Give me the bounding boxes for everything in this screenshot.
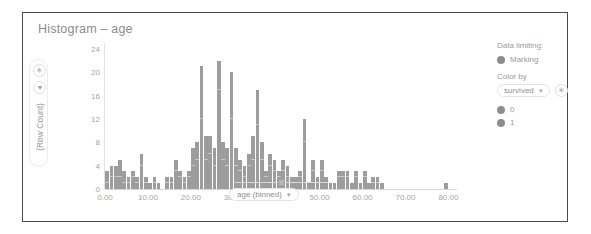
- y-axis-settings-button[interactable]: ✳: [33, 64, 46, 77]
- bar-segment-divider: [110, 176, 114, 177]
- color-by-label: Color by: [497, 72, 583, 81]
- histogram-bar[interactable]: [122, 171, 126, 189]
- bar-segment-divider: [371, 182, 375, 183]
- bar-segment-divider: [217, 89, 221, 90]
- x-tick-label: 60.00: [343, 193, 383, 202]
- bar-segment-divider: [204, 159, 208, 160]
- color-by-select[interactable]: survived▾: [497, 84, 550, 97]
- histogram-bar[interactable]: [371, 177, 375, 189]
- histogram-bar[interactable]: [178, 171, 182, 189]
- bar-segment-divider: [114, 176, 118, 177]
- bar-segment-divider: [230, 118, 234, 119]
- histogram-bar[interactable]: [346, 171, 350, 189]
- histogram-bar[interactable]: [230, 72, 234, 189]
- bar-segment-divider: [303, 141, 307, 142]
- histogram-bar[interactable]: [131, 171, 135, 189]
- legend-color-dot: [497, 119, 505, 127]
- bar-segment-divider: [135, 182, 139, 183]
- plot-area[interactable]: [105, 43, 457, 189]
- screenshot-root: Histogram – age ✳ ▾ (Row Count) 04812162…: [0, 0, 591, 234]
- bar-segment-divider: [221, 159, 225, 160]
- plot-wrapper: 04812162024 0.0010.0020.0030.0040.0050.0…: [78, 43, 458, 193]
- x-axis-column-selector[interactable]: age (binned)▾: [229, 188, 299, 201]
- histogram-bar[interactable]: [187, 171, 191, 189]
- bar-segment-divider: [178, 176, 182, 177]
- histogram-bar[interactable]: [153, 177, 157, 189]
- histogram-bar[interactable]: [140, 154, 144, 189]
- bar-segment-divider: [153, 182, 157, 183]
- histogram-bar[interactable]: [135, 177, 139, 189]
- color-by-value: survived: [504, 86, 534, 95]
- legend-value-label: 0: [510, 105, 514, 114]
- bar-segment-divider: [213, 165, 217, 166]
- bar-segment-divider: [131, 176, 135, 177]
- histogram-bar[interactable]: [118, 160, 122, 189]
- bar-segment-divider: [281, 170, 285, 171]
- histogram-bar[interactable]: [191, 148, 195, 189]
- bar-segment-divider: [195, 159, 199, 160]
- histogram-bar[interactable]: [221, 142, 225, 189]
- y-tick-label: 20: [78, 68, 100, 77]
- bar-segment-divider: [170, 182, 174, 183]
- histogram-bar[interactable]: [208, 136, 212, 189]
- marking-color-dot: [497, 56, 505, 64]
- histogram-bar[interactable]: [363, 171, 367, 189]
- bar-segment-divider: [225, 165, 229, 166]
- histogram-bar[interactable]: [165, 177, 169, 189]
- histogram-bar[interactable]: [127, 177, 131, 189]
- histogram-bar[interactable]: [213, 148, 217, 189]
- bar-segment-divider: [247, 165, 251, 166]
- bar-segment-divider: [234, 165, 238, 166]
- bar-segment-divider: [260, 159, 264, 160]
- marking-row[interactable]: Marking: [497, 55, 583, 64]
- y-tick-label: 4: [78, 161, 100, 170]
- bar-segment-divider: [251, 159, 255, 160]
- legend-color-dot: [497, 106, 505, 114]
- legend-value-item[interactable]: 0: [497, 105, 583, 114]
- histogram-bar[interactable]: [195, 142, 199, 189]
- histogram-bar[interactable]: [376, 177, 380, 189]
- histogram-bar[interactable]: [256, 90, 260, 189]
- legend-value-label: 1: [510, 118, 514, 127]
- histogram-bar[interactable]: [183, 177, 187, 189]
- y-axis-label[interactable]: (Row Count): [35, 85, 45, 169]
- x-axis-column-label: age (binned): [237, 190, 282, 199]
- page-title: Histogram – age: [38, 22, 133, 36]
- bar-segment-divider: [346, 176, 350, 177]
- x-tick-label: 50.00: [300, 193, 340, 202]
- histogram-card: Histogram – age ✳ ▾ (Row Count) 04812162…: [22, 12, 568, 222]
- histogram-bar[interactable]: [225, 148, 229, 189]
- histogram-bar[interactable]: [337, 171, 341, 189]
- data-limiting-label: Data limiting:: [497, 41, 583, 50]
- bar-segment-divider: [376, 182, 380, 183]
- bar-segment-divider: [238, 170, 242, 171]
- y-tick-label: 24: [78, 44, 100, 53]
- histogram-bar[interactable]: [170, 177, 174, 189]
- histogram-bar[interactable]: [354, 171, 358, 189]
- bar-segment-divider: [208, 153, 212, 154]
- legend-value-list: 01: [497, 105, 583, 127]
- legend-value-item[interactable]: 1: [497, 118, 583, 127]
- x-tick-label: 10.00: [128, 193, 168, 202]
- bar-segment-divider: [311, 170, 315, 171]
- chevron-down-icon: ▾: [539, 85, 543, 96]
- histogram-bar[interactable]: [341, 171, 345, 189]
- histogram-bar[interactable]: [105, 171, 109, 189]
- histogram-bar[interactable]: [204, 136, 208, 189]
- histogram-bar[interactable]: [174, 160, 178, 189]
- bar-segment-divider: [337, 176, 341, 177]
- histogram-bar[interactable]: [114, 166, 118, 189]
- slider-handle[interactable]: [278, 179, 285, 186]
- bar-segment-divider: [320, 170, 324, 171]
- histogram-bar[interactable]: [110, 166, 114, 189]
- y-tick-label: 16: [78, 91, 100, 100]
- x-axis-range-slider[interactable]: [235, 178, 327, 188]
- marking-label: Marking: [510, 55, 538, 64]
- color-by-row: survived▾ ✳: [497, 84, 583, 97]
- color-settings-button[interactable]: ✳: [555, 84, 568, 97]
- histogram-bar[interactable]: [217, 61, 221, 189]
- histogram-bar[interactable]: [200, 66, 204, 189]
- bar-segment-divider: [165, 182, 169, 183]
- histogram-bar[interactable]: [144, 177, 148, 189]
- bar-segment-divider: [256, 124, 260, 125]
